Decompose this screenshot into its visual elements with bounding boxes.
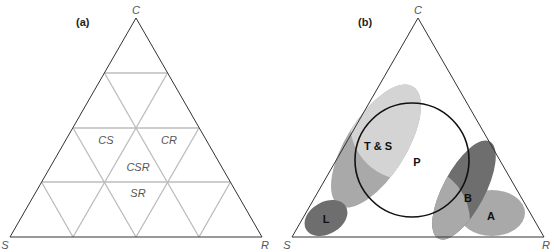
region-cs-label: CS — [98, 134, 114, 146]
panel-a: (a) C S R CS CR CSR SR — [1, 4, 269, 251]
b-label: B — [464, 192, 472, 204]
corner-c-label-b: C — [414, 4, 422, 16]
region-csr-label: CSR — [126, 161, 149, 173]
panel-b: (b) C S R T & S P L B A — [283, 4, 550, 251]
corner-r-label-b: R — [542, 239, 550, 251]
corner-c-label: C — [132, 4, 140, 16]
ts-label: T & S — [364, 140, 392, 152]
panel-b-label: (b) — [358, 16, 372, 28]
l-label: L — [323, 213, 330, 225]
corner-r-label: R — [261, 239, 269, 251]
region-sr-label: SR — [130, 187, 145, 199]
corner-s-label-b: S — [283, 239, 291, 251]
corner-s-label: S — [1, 239, 9, 251]
p-label: P — [413, 156, 420, 168]
region-cr-label: CR — [161, 134, 177, 146]
diagram-canvas: (a) C S R CS CR CSR SR (b) — [0, 0, 554, 252]
panel-a-label: (a) — [76, 16, 90, 28]
a-label: A — [487, 210, 495, 222]
triangle-grid — [42, 73, 231, 237]
